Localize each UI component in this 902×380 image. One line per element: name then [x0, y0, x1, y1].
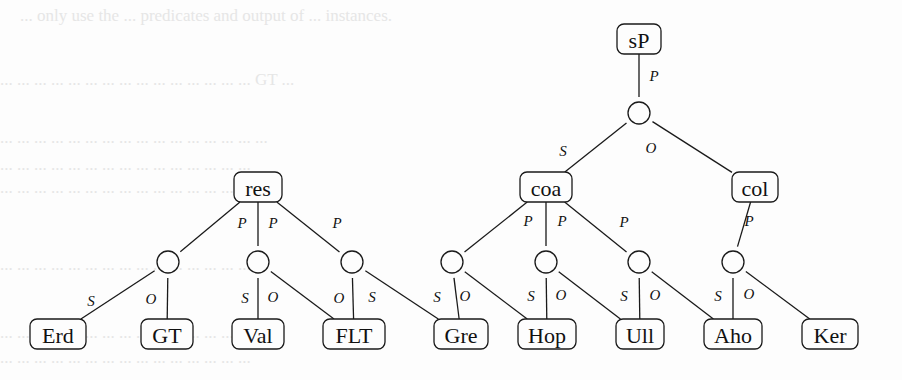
edge-res-c3 — [277, 202, 340, 252]
edges-layer — [81, 54, 810, 319]
node-label: Hop — [528, 323, 566, 348]
edge-label: O — [556, 287, 567, 303]
edge-c6-Aho — [652, 272, 714, 319]
node-label: GT — [152, 323, 182, 348]
node-label: res — [245, 176, 271, 201]
node-aho: Aho — [704, 319, 762, 349]
edge-label: O — [650, 287, 661, 303]
node-gre: Gre — [434, 319, 488, 349]
edge-label: P — [267, 215, 277, 231]
node-label: sP — [629, 28, 650, 53]
node-val: Val — [232, 319, 284, 349]
edge-label: S — [368, 289, 376, 305]
edge-coa-c6 — [565, 202, 627, 252]
edge-label: S — [527, 288, 535, 304]
edge-c5-Hop — [546, 278, 547, 319]
edge-label: O — [146, 291, 157, 307]
edge-c4-Gre — [454, 278, 459, 319]
node-res: res — [234, 172, 282, 202]
blank-node-c7 — [722, 251, 744, 273]
edge-c3-FLT — [352, 278, 353, 319]
edge-label: P — [648, 68, 658, 84]
edge-c3-Gre — [365, 271, 438, 319]
edge-c1-GT — [167, 278, 168, 319]
edge-label: S — [87, 293, 95, 309]
edge-label: S — [559, 143, 567, 159]
blank-node-c1 — [157, 251, 179, 273]
node-flt: FLT — [323, 319, 385, 349]
edge-label: S — [620, 288, 628, 304]
edge-label: P — [236, 215, 246, 231]
edge-label: S — [714, 288, 722, 304]
edge-label: O — [334, 290, 345, 306]
edge-c7-Ker — [746, 272, 810, 319]
node-label: FLT — [335, 323, 373, 348]
edge-label: O — [646, 140, 657, 156]
node-label: Erd — [42, 323, 74, 348]
blank-node-c6 — [628, 251, 650, 273]
edge-coa-c4 — [465, 202, 528, 252]
edge-label: P — [522, 213, 532, 229]
edge-res-c1 — [180, 202, 240, 252]
node-sp: sP — [617, 24, 661, 54]
blank-node-c4 — [441, 251, 463, 273]
edge-c2-FLT — [271, 272, 334, 319]
edge-c4-Hop — [465, 272, 527, 319]
node-label: Val — [243, 323, 272, 348]
edge-label: S — [433, 289, 441, 305]
node-coa: coa — [520, 172, 572, 202]
edge-label: O — [268, 289, 279, 305]
edge-label: P — [556, 213, 566, 229]
node-label: Ker — [814, 323, 848, 348]
node-label: Aho — [714, 323, 752, 348]
blank-node-c3 — [341, 251, 363, 273]
node-erd: Erd — [30, 319, 86, 349]
node-label: Ull — [626, 323, 654, 348]
node-label: Gre — [445, 323, 478, 348]
edge-c0-coa — [565, 123, 627, 172]
edge-label: P — [618, 214, 628, 230]
blank-node-c5 — [535, 251, 557, 273]
node-gt: GT — [141, 319, 193, 349]
edge-label: P — [331, 215, 341, 231]
edge-label: O — [460, 288, 471, 304]
node-label: coa — [531, 176, 562, 201]
edge-c6-Ull — [639, 278, 640, 319]
edge-labels-layer: PSOPPPPPPPSOSOOSSOSOSOSO — [87, 68, 754, 309]
node-hop: Hop — [518, 319, 576, 349]
edge-c5-Ull — [559, 272, 621, 319]
node-ker: Ker — [802, 319, 858, 349]
tree-diagram: sPcoacolresErdGTValFLTGreHopUllAhoKer PS… — [0, 0, 902, 380]
edge-c0-col — [652, 122, 732, 173]
blank-node-c2 — [247, 251, 269, 273]
node-ull: Ull — [616, 319, 664, 349]
edge-label: P — [743, 213, 753, 229]
edge-label: O — [744, 286, 755, 302]
edge-label: S — [241, 290, 249, 306]
blank-node-c0 — [628, 102, 650, 124]
node-label: col — [742, 176, 769, 201]
node-col: col — [732, 172, 778, 202]
